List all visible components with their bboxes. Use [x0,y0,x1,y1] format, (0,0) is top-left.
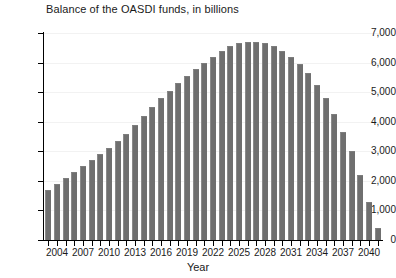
x-axis-tick [74,241,75,246]
x-axis-tick [135,241,136,246]
bar [253,42,259,240]
bar [80,166,86,240]
bar [357,175,363,240]
bar [271,46,277,240]
x-axis-tick [265,241,266,246]
bar [288,57,294,240]
bar [71,172,77,240]
bar [54,184,60,240]
bar [97,154,103,240]
bar [349,151,355,240]
x-axis-tick [83,241,84,246]
bar [262,43,268,240]
bar [63,178,69,240]
x-axis-tick [144,241,145,246]
bar-series [44,33,382,240]
chart-title: Balance of the OASDI funds, in billions [46,3,239,15]
x-axis-tick [213,241,214,246]
x-axis-tick [352,241,353,246]
bar [201,63,207,240]
bar [366,202,372,240]
bar [305,73,311,240]
x-axis-tick [126,241,127,246]
bar [279,51,285,240]
x-axis-tick [378,241,379,246]
bar [141,116,147,240]
x-axis-tick [204,241,205,246]
bar [158,98,164,240]
bar [323,98,329,240]
bar [210,57,216,240]
x-axis-tick [326,241,327,246]
bar [219,51,225,240]
x-axis-tick-label: 2040 [358,247,380,258]
x-axis-tick [334,241,335,246]
x-axis-tick [291,241,292,246]
x-axis-tick-label: 2010 [98,247,120,258]
bar [123,134,129,240]
bar [314,85,320,240]
bar [89,160,95,240]
x-axis-tick [48,241,49,246]
x-axis-tick-label: 2031 [280,247,302,258]
x-axis-tick-label: 2019 [176,247,198,258]
x-axis-tick [274,241,275,246]
x-axis-tick [66,241,67,246]
bar [236,43,242,240]
x-axis-tick [109,241,110,246]
x-axis-tick-label: 2034 [306,247,328,258]
x-axis-tick [100,241,101,246]
x-axis-tick [300,241,301,246]
x-axis-tick [178,241,179,246]
x-axis-tick [239,241,240,246]
x-axis-tick [187,241,188,246]
x-axis-tick [92,241,93,246]
bar [227,46,233,240]
x-axis-tick [369,241,370,246]
x-axis-tick [161,241,162,246]
bar [340,132,346,240]
x-axis-tick-label: 2037 [332,247,354,258]
x-axis-tick [308,241,309,246]
bar [245,42,251,240]
x-axis-tick [57,241,58,246]
bar [115,141,121,240]
x-axis-tick-label: 2013 [124,247,146,258]
x-axis-tick [248,241,249,246]
x-axis-ticks [44,241,382,246]
x-axis-tick [118,241,119,246]
bar [184,76,190,240]
x-axis-tick-label: 2007 [72,247,94,258]
x-axis-tick-label: 2025 [228,247,250,258]
bar [167,91,173,240]
x-axis-tick [222,241,223,246]
x-axis-tick [256,241,257,246]
bar [132,125,138,240]
bar [331,114,337,240]
bar [45,190,51,240]
oasdi-balance-chart: Balance of the OASDI funds, in billions … [0,0,396,278]
x-axis-tick [360,241,361,246]
bar [297,64,303,240]
x-axis-tick [170,241,171,246]
x-axis-tick [282,241,283,246]
x-axis-tick-label: 2004 [46,247,68,258]
bar [106,148,112,240]
bar [193,69,199,241]
x-axis-title: Year [0,261,396,273]
x-axis-tick-label: 2022 [202,247,224,258]
bar [175,83,181,240]
x-axis-tick [152,241,153,246]
bar [149,107,155,240]
x-axis-tick [343,241,344,246]
x-axis-tick [230,241,231,246]
x-axis-tick [317,241,318,246]
bar [375,228,381,240]
x-axis-tick [196,241,197,246]
x-axis-tick-label: 2028 [254,247,276,258]
x-axis-tick-label: 2016 [150,247,172,258]
